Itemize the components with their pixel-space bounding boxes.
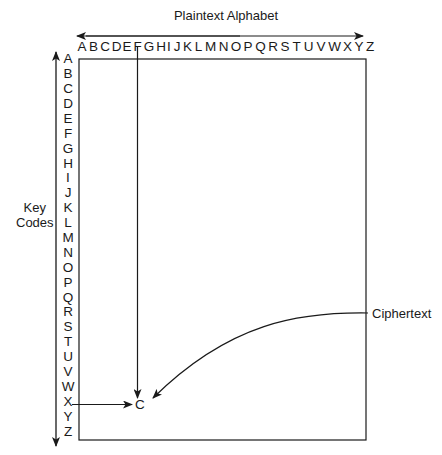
- row-letter: X: [60, 395, 76, 409]
- row-letter: O: [60, 261, 76, 275]
- column-letter: F: [133, 40, 141, 54]
- ciphertext-result-letter: C: [135, 398, 145, 411]
- row-letter: Z: [60, 425, 76, 439]
- column-letter: G: [144, 40, 155, 54]
- key-codes-label-line2: Codes: [16, 215, 54, 230]
- row-letter: U: [60, 350, 76, 364]
- row-letter: W: [60, 380, 76, 394]
- row-letter: C: [60, 82, 76, 96]
- column-letter: M: [205, 40, 216, 54]
- ciphertext-label: Ciphertext: [372, 307, 431, 320]
- column-letter: X: [343, 40, 352, 54]
- column-letter: Z: [366, 40, 374, 54]
- ciphertext-curve-arrow: [153, 313, 368, 398]
- row-letter: K: [60, 201, 76, 215]
- column-letter: D: [112, 40, 122, 54]
- column-letter: L: [195, 40, 203, 54]
- row-letter: B: [60, 67, 76, 81]
- row-letter: Y: [60, 410, 76, 424]
- column-letter: W: [328, 40, 341, 54]
- row-letter: A: [60, 52, 76, 66]
- column-letter: A: [77, 40, 86, 54]
- column-letter: N: [219, 40, 229, 54]
- cipher-table-diagram: Plaintext Alphabet A B C D E F G H I J K…: [0, 0, 442, 455]
- row-letter: V: [60, 365, 76, 379]
- column-letter: R: [268, 40, 278, 54]
- row-letter: H: [60, 157, 76, 171]
- column-letter: U: [304, 40, 314, 54]
- row-letter: J: [60, 186, 76, 200]
- column-letter: Y: [354, 40, 363, 54]
- row-letter: E: [60, 112, 76, 126]
- column-letters: A B C D E F G H I J K L M N O P Q R S T …: [75, 40, 375, 56]
- key-codes-label-line1: Key: [16, 200, 54, 215]
- column-letter: J: [174, 40, 181, 54]
- column-letter: H: [156, 40, 166, 54]
- column-letter: I: [167, 40, 171, 54]
- row-letter: P: [60, 276, 76, 290]
- row-letter: G: [60, 142, 76, 156]
- row-letter: I: [60, 171, 76, 185]
- row-letter: N: [60, 246, 76, 260]
- column-letter: C: [100, 40, 110, 54]
- column-letter: P: [243, 40, 252, 54]
- row-letter: F: [60, 127, 76, 141]
- row-letter: S: [60, 320, 76, 334]
- column-letter: K: [183, 40, 192, 54]
- column-letter: V: [316, 40, 325, 54]
- tableau-box: [79, 59, 366, 440]
- column-letter: O: [231, 40, 242, 54]
- row-letters: A B C D E F G H I J K L M N O P Q R S T …: [60, 52, 76, 447]
- column-letter: E: [122, 40, 131, 54]
- key-codes-label: Key Codes: [16, 200, 54, 230]
- column-letter: B: [89, 40, 98, 54]
- column-letter: S: [280, 40, 289, 54]
- row-letter: L: [60, 216, 76, 230]
- column-letter: Q: [255, 40, 266, 54]
- row-letter: T: [60, 335, 76, 349]
- row-letter: D: [60, 97, 76, 111]
- row-letter: M: [60, 231, 76, 245]
- row-letter: Q: [60, 291, 76, 305]
- plaintext-alphabet-title: Plaintext Alphabet: [0, 9, 442, 22]
- row-letter: R: [60, 305, 76, 319]
- column-letter: T: [292, 40, 300, 54]
